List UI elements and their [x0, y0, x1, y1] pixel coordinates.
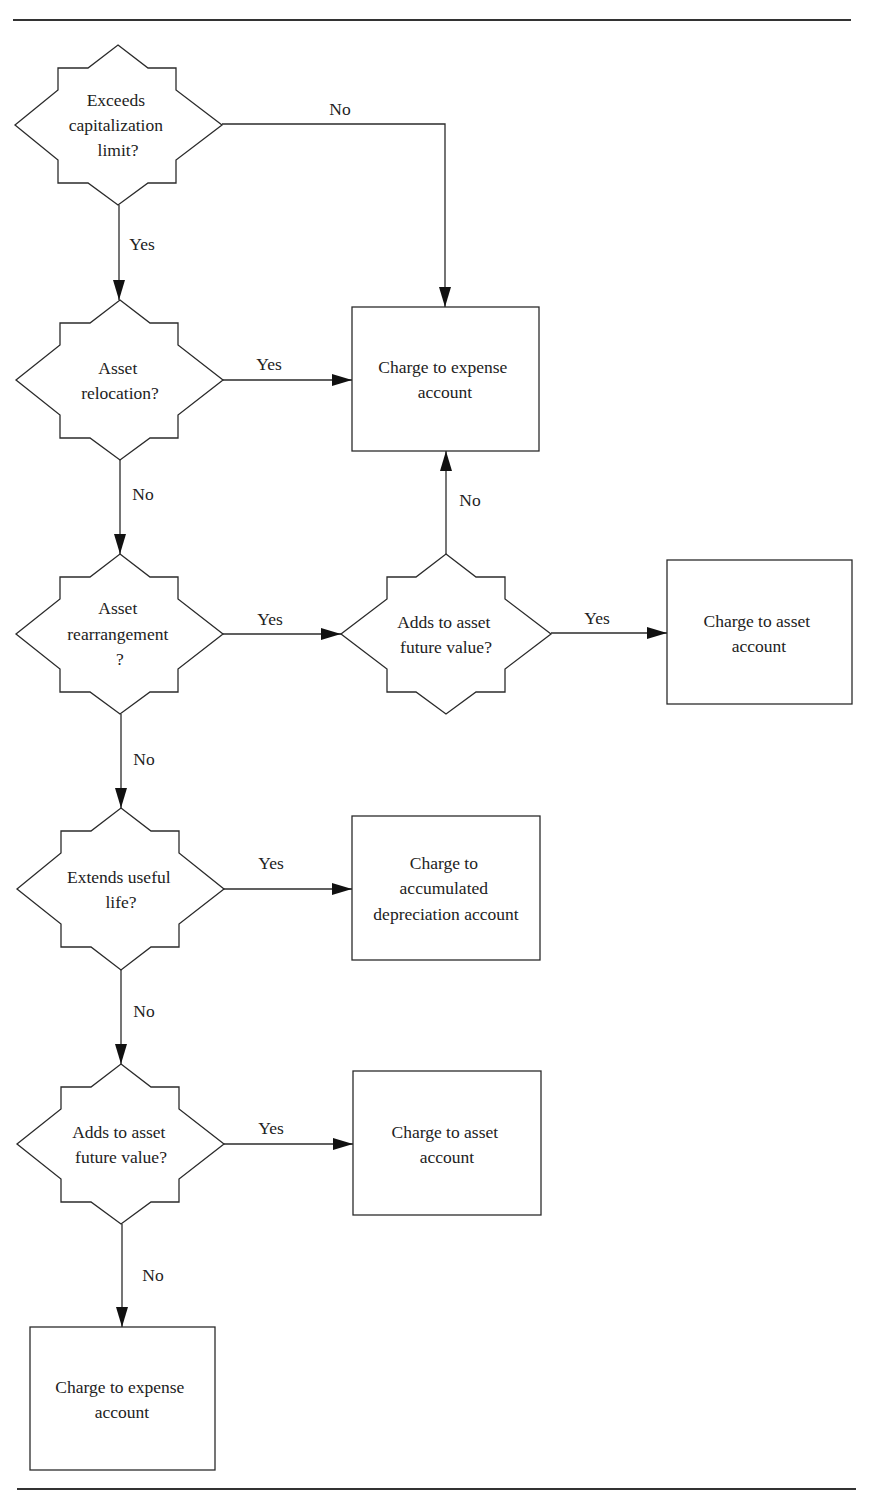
edge-label: No: [459, 490, 481, 510]
edge-d6-yes: Yes: [224, 1118, 353, 1144]
decision-shape: [17, 808, 224, 970]
outcome-charge-to-accumulated-depreciation: Charge to accumulated depreciation accou…: [352, 816, 540, 960]
edge-label: Yes: [256, 354, 282, 374]
decision-adds-to-asset-future-value-upper: Adds to asset future value?: [341, 554, 551, 714]
edge-d2-yes: Yes: [223, 354, 352, 380]
decision-shape: [16, 300, 223, 460]
edge-d3-yes: Yes: [223, 609, 341, 634]
outcome-charge-to-expense-account-lower: Charge to expense account: [30, 1327, 215, 1470]
decision-shape: [341, 554, 551, 714]
edge-label: Yes: [257, 609, 283, 629]
edge-d2-no: No: [120, 460, 154, 554]
edge-label: Yes: [584, 608, 610, 628]
outcome-box: [352, 307, 539, 451]
decision-exceeds-capitalization-limit: Exceeds capitalization limit?: [15, 45, 222, 205]
decision-extends-useful-life: Extends useful life?: [17, 808, 224, 970]
edge-d6-no: No: [122, 1224, 164, 1327]
outcome-charge-to-asset-account-lower: Charge to asset account: [353, 1071, 541, 1215]
edge-label: No: [133, 749, 155, 769]
outcome-box: [353, 1071, 541, 1215]
decision-adds-to-asset-future-value-lower: Adds to asset future value?: [17, 1064, 224, 1224]
edge-label: No: [329, 99, 351, 119]
outcome-charge-to-expense-account-upper: Charge to expense account: [352, 307, 539, 451]
outcome-charge-to-asset-account-upper: Charge to asset account: [667, 560, 852, 704]
edge-label: No: [132, 484, 154, 504]
edge-d1-no: No: [222, 99, 445, 307]
decision-shape: [17, 1064, 224, 1224]
edge-d3-no: No: [121, 714, 155, 808]
outcome-box: [667, 560, 852, 704]
decision-asset-rearrangement: Asset rearrangement ?: [16, 554, 223, 714]
capitalization-flowchart: Exceeds capitalization limit? Asset relo…: [0, 0, 872, 1493]
decision-asset-relocation: Asset relocation?: [16, 300, 223, 460]
arrow-connector: [222, 124, 445, 307]
edge-d1-yes: Yes: [119, 205, 155, 300]
edge-d5-no: No: [121, 970, 155, 1064]
edge-label: Yes: [258, 1118, 284, 1138]
edge-label: No: [133, 1001, 155, 1021]
edge-label: No: [142, 1265, 164, 1285]
outcome-box: [30, 1327, 215, 1470]
edge-d5-yes: Yes: [224, 853, 352, 889]
edge-label: Yes: [129, 234, 155, 254]
edge-d4-yes: Yes: [551, 608, 667, 633]
edge-d4-no: No: [446, 451, 481, 554]
edge-label: Yes: [258, 853, 284, 873]
